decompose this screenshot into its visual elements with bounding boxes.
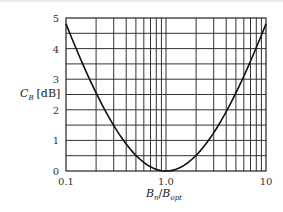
y-axis-label: CB[dB]: [20, 87, 60, 102]
x-tick-labels: 0.11.010: [58, 176, 272, 187]
chart: 012345 0.11.010 CB[dB] Bn/Bopt: [0, 0, 283, 212]
y-tick-label: 1: [53, 135, 59, 146]
y-tick-label: 2: [53, 105, 59, 116]
y-tick-label: 4: [53, 44, 59, 55]
x-tick-label: 0.1: [58, 176, 74, 187]
x-tick-label: 1.0: [158, 176, 174, 187]
x-axis-label: Bn/Bopt: [145, 187, 182, 202]
y-tick-label: 5: [53, 13, 59, 24]
grid: [66, 18, 266, 171]
y-tick-label: 3: [53, 74, 59, 85]
x-tick-label: 10: [260, 176, 273, 187]
